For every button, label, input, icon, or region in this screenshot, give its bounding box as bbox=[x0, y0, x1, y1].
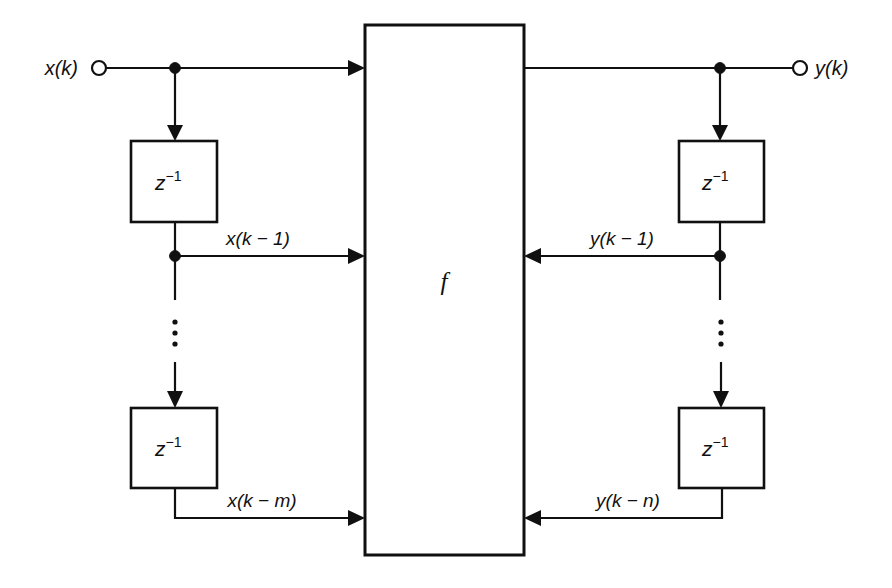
vertical-ellipsis-left bbox=[172, 319, 177, 346]
central-function-block: f bbox=[365, 25, 524, 555]
x-delay-m-label-base: z bbox=[154, 437, 166, 460]
ellipsis-right-dot-1 bbox=[718, 319, 723, 324]
ellipsis-left-dot-2 bbox=[172, 330, 177, 335]
block-diagram-figure: f x(k) z−1 bbox=[0, 0, 892, 588]
y-delay-1-arrowhead bbox=[524, 248, 541, 264]
x-delay-m-block: z−1 bbox=[131, 408, 217, 488]
output-main-wire bbox=[524, 63, 793, 74]
x-delay-1-label-base: z bbox=[154, 171, 166, 194]
x-chain-arrowhead bbox=[167, 391, 183, 408]
y-delay-n-output-wire: y(k − n) bbox=[524, 488, 722, 526]
y-delay-1-output-wire: y(k − 1) bbox=[524, 222, 725, 300]
y-delay-n-label-base: z bbox=[701, 437, 713, 460]
ellipsis-right-dot-2 bbox=[718, 330, 723, 335]
y-delay-n-label-exponent: −1 bbox=[713, 434, 729, 450]
input-tap-to-delay1 bbox=[167, 68, 183, 141]
input-tap-arrowhead bbox=[167, 125, 183, 141]
y-delay-1-label-base: z bbox=[701, 171, 713, 194]
input-terminal-label: x(k) bbox=[44, 57, 78, 79]
x-delay-1-junction-dot bbox=[170, 251, 181, 262]
x-delay-1-block: z−1 bbox=[131, 141, 217, 222]
input-main-wire bbox=[106, 60, 365, 76]
x-delay-m-signal-label: x(k − m) bbox=[226, 490, 296, 511]
output-terminal-group: y(k) bbox=[793, 57, 848, 79]
y-chain-arrowhead bbox=[713, 391, 729, 408]
x-delay-1-arrowhead bbox=[348, 248, 365, 264]
y-delay-n-block: z−1 bbox=[679, 408, 764, 488]
y-delay-n-arrowhead bbox=[524, 510, 541, 526]
y-delay-n-signal-label: y(k − n) bbox=[594, 490, 660, 511]
x-delay-1-signal-label: x(k − 1) bbox=[225, 228, 290, 249]
y-delay-1-label-exponent: −1 bbox=[713, 168, 729, 184]
ellipsis-right-dot-3 bbox=[718, 341, 723, 346]
ellipsis-left-dot-3 bbox=[172, 341, 177, 346]
x-delay-1-label-exponent: −1 bbox=[166, 168, 182, 184]
x-delay-m-output-wire: x(k − m) bbox=[175, 488, 365, 526]
output-terminal-circle bbox=[793, 61, 807, 75]
y-delay-1-signal-label: y(k − 1) bbox=[588, 228, 654, 249]
ellipsis-left-dot-1 bbox=[172, 319, 177, 324]
x-delay-1-output-wire: x(k − 1) bbox=[170, 222, 365, 300]
output-tap-arrowhead bbox=[712, 125, 728, 141]
y-chain-to-delay-n bbox=[713, 362, 729, 408]
vertical-ellipsis-right bbox=[718, 319, 723, 346]
y-delay-1-junction-dot bbox=[715, 251, 726, 262]
x-delay-m-label-exponent: −1 bbox=[166, 434, 182, 450]
diagram-canvas: f x(k) z−1 bbox=[0, 0, 892, 588]
output-tap-to-delay1 bbox=[712, 68, 728, 141]
input-terminal-group: x(k) bbox=[44, 57, 106, 79]
x-delay-m-arrowhead bbox=[348, 510, 365, 526]
input-terminal-circle bbox=[92, 61, 106, 75]
input-wire-arrowhead bbox=[348, 60, 365, 76]
y-delay-1-block: z−1 bbox=[679, 141, 764, 222]
x-chain-to-delay-m bbox=[167, 362, 183, 408]
output-terminal-label: y(k) bbox=[813, 57, 848, 79]
